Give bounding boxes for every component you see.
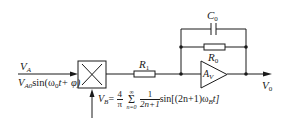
amplifier-label: AV: [203, 69, 213, 81]
summation: ∞Σn=0: [127, 90, 137, 109]
coef-fraction: 4π: [117, 90, 124, 110]
input-b-expression: VB= 4π ∞Σn=0 12n+1sin[(2n+1)ωBt]: [98, 90, 220, 110]
output-label-v: V: [262, 79, 269, 91]
input-b-arrow-icon: [90, 89, 95, 97]
expr-a-tail: t+ φ): [58, 77, 80, 88]
c0-label: C0: [207, 10, 218, 23]
r1-label-r: R: [139, 58, 146, 70]
junction-dot: [179, 45, 183, 49]
c0-label-sub: 0: [214, 15, 218, 23]
input-a-expression: VA0sin(ω0t+ φ): [18, 78, 80, 90]
r0-label-r: R: [208, 51, 215, 63]
r0-label: R0: [208, 52, 218, 65]
r1-label: R1: [139, 59, 149, 72]
term-fraction: 12n+1: [140, 90, 160, 110]
r0-resistor: [204, 44, 225, 50]
junction-dot: [244, 72, 248, 76]
junction-dot: [244, 45, 248, 49]
r0-label-sub: 0: [215, 57, 219, 65]
sum-bottom: n=0: [127, 104, 137, 110]
junction-dot: [179, 72, 183, 76]
term-tail: t]: [213, 93, 220, 104]
output-label-sub: 0: [269, 85, 273, 93]
output-arrow-icon: [263, 72, 272, 77]
amp-label-sub: V: [209, 73, 213, 81]
input-a-label-v: V: [20, 60, 27, 72]
expr-a-body: sin(ω: [32, 77, 55, 88]
expr-b-equals: =: [108, 93, 114, 104]
term-den: 2n+1: [140, 100, 160, 109]
r1-label-sub: 1: [146, 64, 150, 72]
output-label: V0: [262, 80, 272, 93]
input-a-label: VA: [20, 61, 31, 74]
input-a-label-sub: A: [27, 66, 31, 74]
coef-den: π: [117, 100, 124, 109]
term-func: sin[(2n+1)ω: [160, 93, 209, 104]
input-a-arrow-icon: [70, 72, 78, 77]
